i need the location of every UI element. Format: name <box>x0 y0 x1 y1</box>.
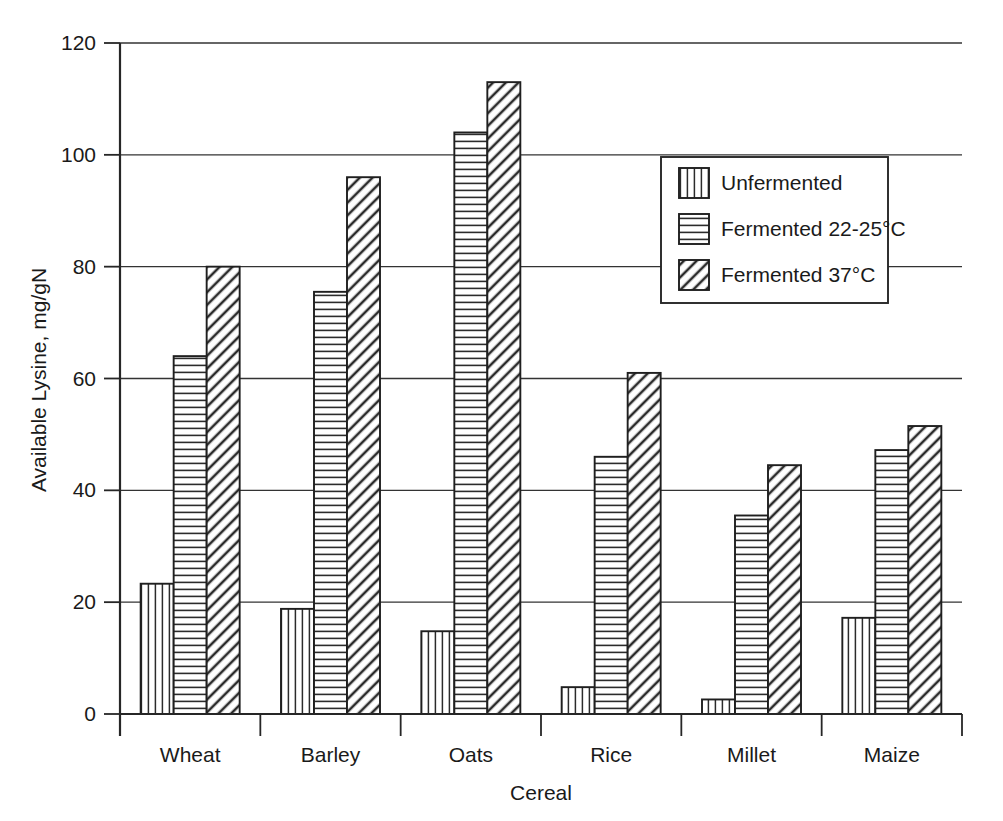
legend-swatch-vertical-lines <box>679 168 709 198</box>
y-tick-label: 20 <box>73 590 96 613</box>
x-category-label: Barley <box>301 743 361 766</box>
bar <box>314 292 347 714</box>
x-category-label: Millet <box>727 743 776 766</box>
bar-chart: 020406080100120 WheatBarleyOatsRiceMille… <box>0 0 1003 821</box>
bar <box>628 373 661 714</box>
y-tick-label: 60 <box>73 367 96 390</box>
x-axis-title: Cereal <box>510 781 572 804</box>
bar <box>595 457 628 714</box>
y-tick-labels: 020406080100120 <box>61 31 120 725</box>
bar <box>875 450 908 714</box>
x-category-label: Wheat <box>160 743 221 766</box>
y-tick-label: 100 <box>61 143 96 166</box>
y-tick-label: 120 <box>61 31 96 54</box>
bar <box>735 515 768 714</box>
y-axis-title: Available Lysine, mg/gN <box>27 268 50 492</box>
chart-figure: 020406080100120 WheatBarleyOatsRiceMille… <box>0 0 1003 821</box>
legend-swatch-diagonal-hatch <box>679 260 709 290</box>
bar <box>281 609 314 714</box>
x-category-label: Rice <box>590 743 632 766</box>
bar <box>141 584 174 714</box>
bar <box>562 687 595 714</box>
chart-legend: UnfermentedFermented 22-25°CFermented 37… <box>661 157 906 303</box>
x-category-label: Oats <box>449 743 493 766</box>
y-tick-label: 0 <box>84 702 96 725</box>
legend-label: Fermented 37°C <box>721 263 875 286</box>
y-tick-label: 80 <box>73 255 96 278</box>
bar <box>702 699 735 714</box>
bar <box>768 465 801 714</box>
y-tick-label: 40 <box>73 478 96 501</box>
bar <box>454 132 487 714</box>
legend-label: Unfermented <box>721 171 842 194</box>
bar <box>842 618 875 714</box>
bar <box>174 356 207 714</box>
bar <box>487 82 520 714</box>
axes <box>120 43 962 736</box>
bar <box>421 631 454 714</box>
gridlines <box>120 43 962 602</box>
legend-label: Fermented 22-25°C <box>721 217 906 240</box>
bar <box>347 177 380 714</box>
x-category-labels: WheatBarleyOatsRiceMilletMaize <box>160 714 962 766</box>
bar <box>908 426 941 714</box>
x-category-label: Maize <box>864 743 920 766</box>
legend-swatch-horizontal-lines <box>679 214 709 244</box>
bar <box>207 267 240 714</box>
